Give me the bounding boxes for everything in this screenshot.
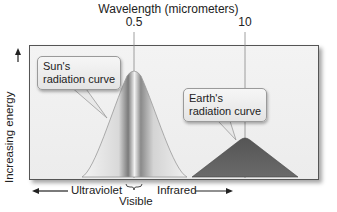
earth-callout-line2: radiation curve (189, 105, 261, 118)
earth-callout-line1: Earth's (189, 92, 261, 105)
sun-callout-line2: radiation curve (43, 73, 115, 86)
ultraviolet-label: Ultraviolet (71, 184, 122, 196)
visible-label: Visible (119, 195, 153, 207)
y-axis-arrow-icon (15, 48, 21, 55)
infrared-label: Infrared (157, 184, 197, 196)
sun-callout: Sun's radiation curve (37, 56, 121, 90)
left-arrow-icon (32, 188, 39, 194)
diagram-graphics (0, 0, 337, 212)
sun-callout-line1: Sun's (43, 60, 115, 73)
visible-brace-icon (126, 184, 142, 190)
earth-radiation-curve (192, 138, 298, 177)
sun-callout-tail (70, 86, 107, 118)
y-axis-label: Increasing energy (3, 92, 15, 183)
right-arrow-icon (226, 188, 233, 194)
earth-callout-tail (218, 121, 236, 140)
earth-callout: Earth's radiation curve (183, 88, 267, 122)
